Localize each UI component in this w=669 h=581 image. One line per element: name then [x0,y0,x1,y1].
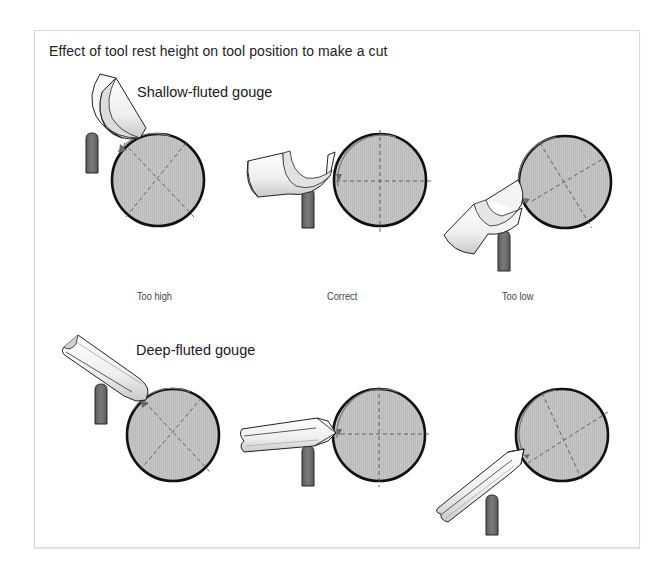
tool-rest-icon [86,133,98,173]
panel-deep-correct [240,387,430,487]
deep-gouge-icon [240,418,336,452]
workpiece-icon [112,134,204,226]
panel-shallow-correct [247,130,433,232]
panel-shallow-too-low [444,136,611,271]
panel-deep-too-low [437,389,608,535]
illustration-canvas [0,0,669,581]
shallow-gouge-icon [247,151,335,197]
panel-shallow-too-high [86,74,204,226]
shallow-gouge-icon [444,180,523,254]
panel-deep-too-high [62,335,219,481]
deep-gouge-icon [437,449,524,522]
shallow-gouge-icon [92,74,146,140]
